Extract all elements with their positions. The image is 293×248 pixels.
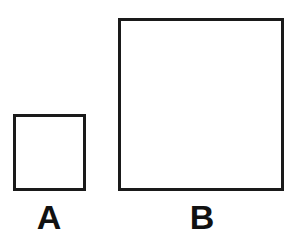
square-b xyxy=(118,18,284,191)
square-b-label: B xyxy=(172,200,233,234)
square-a-label: A xyxy=(19,200,80,234)
square-a xyxy=(13,114,86,191)
diagram-canvas: A B xyxy=(0,0,293,248)
